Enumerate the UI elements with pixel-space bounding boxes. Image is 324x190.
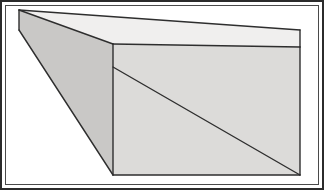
front-face bbox=[113, 44, 300, 175]
figure-root bbox=[0, 0, 324, 190]
perspective-beam-drawing bbox=[0, 0, 324, 190]
